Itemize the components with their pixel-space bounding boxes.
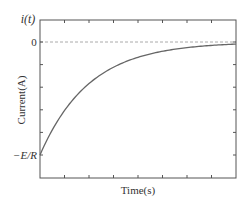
- x-axis-label: Time(s): [121, 184, 156, 197]
- y-axis-symbol: i(t): [21, 12, 36, 26]
- y-tick-label-neg-e-over-r: −E/R: [13, 149, 37, 161]
- y-tick-label-zero: 0: [31, 36, 37, 48]
- y-axis-label: Current(A): [15, 75, 28, 124]
- plot-frame: [40, 20, 236, 178]
- current-decay-chart: i(t) 0 −E/R Time(s) Current(A): [0, 0, 248, 207]
- axis-ticks: [40, 20, 236, 178]
- current-curve: [40, 44, 236, 155]
